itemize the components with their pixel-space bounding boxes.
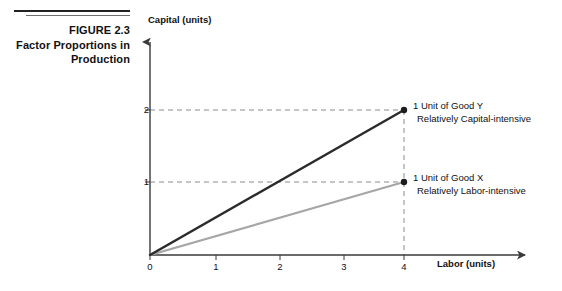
annotation-good-x: 1 Unit of Good X Relatively Labor-intens… bbox=[413, 172, 526, 197]
x-tick-label-3: 3 bbox=[336, 261, 352, 273]
annotation-good-y: 1 Unit of Good Y Relatively Capital-inte… bbox=[413, 100, 531, 125]
y-tick-label-2: 2 bbox=[135, 104, 149, 116]
x-axis-title: Labor (units) bbox=[437, 258, 495, 270]
x-axis-ticks bbox=[150, 255, 404, 260]
annotation-good-x-line-1: 1 Unit of Good X bbox=[413, 172, 526, 185]
x-tick-label-0: 0 bbox=[142, 261, 158, 273]
y-axis-ticks bbox=[145, 110, 150, 182]
endpoint-dot-good-x bbox=[401, 179, 407, 185]
endpoint-dot-good-y bbox=[401, 107, 407, 113]
figure-container: FIGURE 2.3 Factor Proportions in Product… bbox=[0, 0, 562, 291]
plot-svg bbox=[0, 0, 562, 291]
x-tick-label-2: 2 bbox=[272, 261, 288, 273]
annotation-good-x-line-2: Relatively Labor-intensive bbox=[413, 185, 526, 198]
annotation-good-y-line-2: Relatively Capital-intensive bbox=[413, 113, 531, 126]
plot-area bbox=[0, 0, 562, 291]
y-tick-label-1: 1 bbox=[135, 176, 149, 188]
x-tick-label-4: 4 bbox=[396, 261, 412, 273]
data-series bbox=[150, 107, 407, 255]
y-axis-title: Capital (units) bbox=[148, 14, 211, 26]
annotation-good-y-line-1: 1 Unit of Good Y bbox=[413, 100, 531, 113]
ray-good-x-labor-intensive bbox=[150, 182, 404, 255]
x-tick-label-1: 1 bbox=[208, 261, 224, 273]
